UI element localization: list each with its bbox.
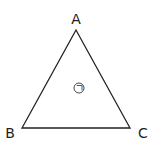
interior-mark: ㄱ [75,83,84,94]
triangle-diagram: A B C ㄱ [0,0,157,147]
vertex-label-c: C [138,125,148,141]
vertex-label-b: B [5,125,15,141]
vertex-label-a: A [71,11,81,27]
triangle-abc [22,30,130,128]
